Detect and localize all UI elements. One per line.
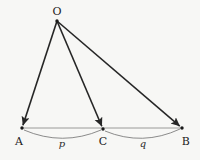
vertex-dot-b	[180, 126, 183, 129]
arc-p	[24, 130, 101, 138]
vector-o-to-c	[57, 21, 102, 126]
vector-o-to-b	[57, 21, 180, 126]
vertex-label-o: O	[52, 6, 61, 17]
arc-q	[105, 129, 180, 138]
vertex-dot-c	[101, 127, 104, 130]
segment-label-p: p	[59, 139, 65, 149]
vertex-label-a: A	[15, 136, 23, 147]
vertex-label-c: C	[99, 136, 108, 147]
vector-o-to-a	[23, 21, 57, 125]
segment-label-q: q	[140, 139, 146, 149]
vertex-dot-a	[20, 126, 23, 129]
vertex-label-b: B	[182, 136, 190, 147]
vertex-dot-o	[55, 19, 58, 22]
geometry-figure: O A C B p q	[0, 0, 200, 160]
